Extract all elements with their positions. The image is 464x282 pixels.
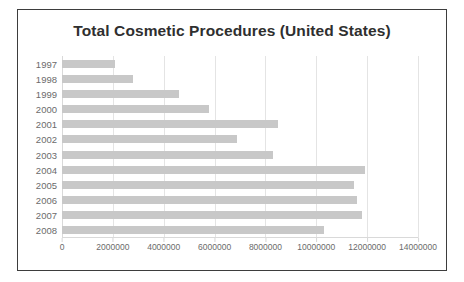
bar-series <box>62 56 418 238</box>
bar <box>62 151 273 159</box>
value-axis-line <box>62 237 418 238</box>
category-axis-labels: 1997199819992000200120022003200420052006… <box>18 56 62 238</box>
bar-row <box>62 71 418 86</box>
value-tick-label: 0 <box>60 242 65 252</box>
bar <box>62 226 324 234</box>
bar-row <box>62 223 418 238</box>
bar <box>62 90 179 98</box>
value-tick-mark <box>316 238 317 242</box>
chart-container: Total Cosmetic Procedures (United States… <box>17 9 447 271</box>
category-label: 2008 <box>36 225 57 236</box>
bar-row <box>62 102 418 117</box>
bar <box>62 166 365 174</box>
value-tick-mark <box>418 238 419 242</box>
bar-row <box>62 86 418 101</box>
value-tick-mark <box>62 238 63 242</box>
bar <box>62 135 237 143</box>
category-label: 2006 <box>36 195 57 206</box>
gridline <box>418 56 419 238</box>
value-tick-label: 6000000 <box>198 242 231 252</box>
value-tick-label: 4000000 <box>147 242 180 252</box>
value-tick-label: 14000000 <box>399 242 437 252</box>
bar-row <box>62 56 418 71</box>
category-label: 2000 <box>36 104 57 115</box>
value-tick-label: 12000000 <box>348 242 386 252</box>
category-label: 2002 <box>36 134 57 145</box>
category-label: 1999 <box>36 88 57 99</box>
value-tick-label: 8000000 <box>249 242 282 252</box>
bar <box>62 120 278 128</box>
bar <box>62 75 133 83</box>
category-label: 2001 <box>36 119 57 130</box>
plot-area <box>62 56 418 238</box>
bar <box>62 181 354 189</box>
value-tick-mark <box>113 238 114 242</box>
category-label: 1998 <box>36 73 57 84</box>
value-tick-label: 2000000 <box>96 242 129 252</box>
value-tick-label: 10000000 <box>297 242 335 252</box>
bar-row <box>62 132 418 147</box>
category-label: 2004 <box>36 164 57 175</box>
value-tick-mark <box>367 238 368 242</box>
bar-row <box>62 147 418 162</box>
bar <box>62 196 357 204</box>
category-label: 2007 <box>36 210 57 221</box>
bar <box>62 60 115 68</box>
bar-row <box>62 162 418 177</box>
bar <box>62 211 362 219</box>
bar-row <box>62 117 418 132</box>
bar-row <box>62 208 418 223</box>
category-label: 2005 <box>36 179 57 190</box>
chart-title: Total Cosmetic Procedures (United States… <box>18 22 446 40</box>
value-tick-mark <box>265 238 266 242</box>
bar <box>62 105 209 113</box>
value-axis-labels: 0200000040000006000000800000010000000120… <box>18 242 446 260</box>
bar-row <box>62 177 418 192</box>
category-label: 1997 <box>36 58 57 69</box>
bar-row <box>62 193 418 208</box>
value-tick-mark <box>215 238 216 242</box>
category-label: 2003 <box>36 149 57 160</box>
value-tick-mark <box>164 238 165 242</box>
